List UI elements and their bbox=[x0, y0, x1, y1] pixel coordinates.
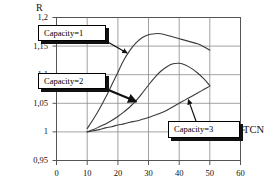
x-tick-label-20: 20 bbox=[106, 169, 130, 178]
x-tick-label-60: 60 bbox=[229, 169, 253, 178]
x-tick-label-30: 30 bbox=[137, 169, 161, 178]
x-axis-label: TCN bbox=[243, 125, 264, 136]
y-tick-label-0-95: 0,95 bbox=[18, 156, 48, 165]
x-axis bbox=[57, 161, 241, 166]
y-tick-label-1: 1 bbox=[18, 127, 48, 136]
chart-figure: R TCN 1,2 1,15 1,1 1,05 1 0,95 0 10 20 3… bbox=[0, 0, 278, 192]
y-tick-label-1-05: 1,05 bbox=[18, 99, 48, 108]
x-tick-label-40: 40 bbox=[167, 169, 191, 178]
y-tick-label-1-2: 1,2 bbox=[18, 13, 48, 22]
annotation-label-capacity-1: Capacity=1 bbox=[38, 25, 106, 41]
x-tick-label-10: 10 bbox=[75, 169, 99, 178]
annotation-label-capacity-2: Capacity=2 bbox=[38, 73, 106, 89]
y-tick-label-1-15: 1,15 bbox=[18, 42, 48, 51]
annotation-label-capacity-3: Capacity=3 bbox=[168, 121, 240, 138]
x-tick-label-50: 50 bbox=[198, 169, 222, 178]
x-tick-label-0: 0 bbox=[45, 169, 69, 178]
